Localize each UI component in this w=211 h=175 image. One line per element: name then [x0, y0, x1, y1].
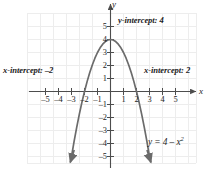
x-intercept-right-annotation: x-intercept: 2: [144, 66, 190, 75]
ytick-label--5: –5: [94, 152, 107, 161]
xtick-label-3: 3: [143, 95, 156, 104]
xtick-label-5: 5: [169, 95, 182, 104]
xtick-label--5: –5: [39, 95, 52, 104]
xtick-label--3: –3: [65, 95, 78, 104]
xtick-label-4: 4: [156, 95, 169, 104]
equation-exponent: 2: [181, 135, 184, 142]
equation-annotation: y = 4 – x2: [148, 136, 184, 148]
x-intercept-left-annotation: x-intercept: –2: [3, 66, 53, 75]
ytick-label--1: –1: [94, 100, 107, 109]
ytick-label-1: 1: [96, 74, 107, 83]
ytick-label-2: 2: [96, 61, 107, 70]
y-axis-label: y: [112, 0, 116, 9]
parabola-graph-figure: x y –5 –4 –3 –2 –1 1 2 3 4 5 5 4 3 2 1 –…: [0, 0, 211, 175]
ytick-label-5: 5: [96, 22, 107, 31]
ytick-label--4: –4: [94, 139, 107, 148]
ytick-label-3: 3: [96, 48, 107, 57]
xtick-label-1: 1: [117, 95, 130, 104]
xtick-label-2: 2: [130, 95, 143, 104]
xtick-label--2: –2: [78, 95, 91, 104]
ytick-label--2: –2: [94, 113, 107, 122]
xtick-label--4: –4: [52, 95, 65, 104]
ytick-label--3: –3: [94, 126, 107, 135]
equation-text: y = 4 – x: [148, 137, 181, 147]
ytick-label-4: 4: [96, 35, 107, 44]
x-axis-label: x: [199, 86, 203, 96]
y-intercept-annotation: y-intercept: 4: [118, 16, 164, 25]
